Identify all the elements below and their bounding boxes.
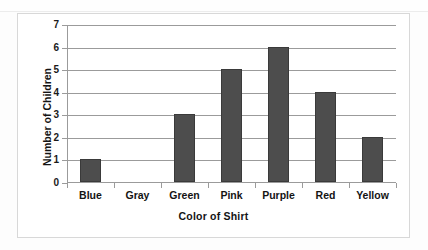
y-tick-label: 2 xyxy=(53,133,59,143)
bar xyxy=(80,159,101,182)
bar xyxy=(174,114,195,182)
x-tick-mark xyxy=(67,183,68,188)
x-tick-mark xyxy=(208,183,209,188)
x-axis-title: Color of Shirt xyxy=(18,210,409,222)
y-tick-mark xyxy=(62,93,67,94)
y-tick-label: 4 xyxy=(53,88,59,98)
y-tick-label: 0 xyxy=(53,178,59,188)
bar xyxy=(221,69,242,182)
y-tick-mark xyxy=(62,48,67,49)
y-axis-title-container: Number of Children xyxy=(40,38,54,196)
y-tick-mark xyxy=(62,160,67,161)
x-category-label: Red xyxy=(316,190,336,201)
y-axis-title: Number of Children xyxy=(40,38,54,196)
y-tick-label: 7 xyxy=(53,20,59,30)
x-category-label: Green xyxy=(169,190,199,201)
x-category-label: Gray xyxy=(126,190,150,201)
gridline xyxy=(67,25,396,26)
x-category-label: Blue xyxy=(79,190,102,201)
x-axis-line xyxy=(67,182,396,183)
x-tick-mark xyxy=(396,183,397,188)
y-tick-label: 5 xyxy=(53,65,59,75)
y-axis-line xyxy=(67,25,68,183)
bar xyxy=(362,137,383,182)
y-tick-label: 3 xyxy=(53,110,59,120)
scan-artifact-band xyxy=(0,0,428,12)
bar xyxy=(315,92,336,182)
y-tick-mark xyxy=(62,138,67,139)
y-tick-mark xyxy=(62,70,67,71)
y-tick-mark xyxy=(62,25,67,26)
y-tick-label: 1 xyxy=(53,155,59,165)
x-tick-mark xyxy=(255,183,256,188)
x-category-label: Pink xyxy=(220,190,242,201)
x-category-label: Yellow xyxy=(356,190,389,201)
bar-chart: Number of Children 01234567 BlueGrayGree… xyxy=(17,13,410,238)
gridline xyxy=(67,48,396,49)
x-category-label: Purple xyxy=(262,190,295,201)
plot-area: 01234567 xyxy=(67,25,396,183)
y-tick-label: 6 xyxy=(53,43,59,53)
x-tick-mark xyxy=(161,183,162,188)
bar xyxy=(268,47,289,182)
x-tick-mark xyxy=(114,183,115,188)
x-tick-mark xyxy=(349,183,350,188)
x-tick-mark xyxy=(302,183,303,188)
y-tick-mark xyxy=(62,115,67,116)
